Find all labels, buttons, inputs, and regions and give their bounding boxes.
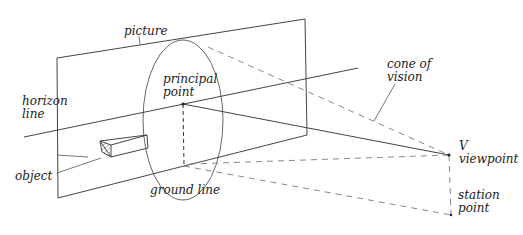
principal-point-dot: [181, 102, 184, 105]
label-horizon-line: line: [22, 108, 45, 120]
label-vision: vision: [387, 71, 423, 83]
label-horizon: horizon: [22, 95, 68, 107]
picture-plane: [57, 19, 307, 198]
label-principal: principal: [163, 73, 217, 85]
label-viewpoint-letter: V: [459, 140, 468, 152]
label-principal-point: point: [163, 86, 194, 98]
object-box: [100, 135, 148, 157]
label-ground-line: ground line: [150, 184, 220, 196]
label-picture: picture: [124, 25, 168, 37]
station-point-dot: [450, 214, 452, 216]
perspective-diagram: [0, 0, 523, 235]
label-station-point: point: [458, 202, 489, 214]
label-cone-of: cone of: [387, 58, 431, 70]
viewpoint-dot: [447, 153, 450, 156]
label-station: station: [458, 189, 500, 201]
label-object: object: [15, 170, 52, 182]
label-viewpoint: viewpoint: [459, 153, 518, 165]
